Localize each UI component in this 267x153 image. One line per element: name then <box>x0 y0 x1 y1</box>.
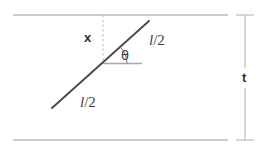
half-length-lower-label: l/2 <box>80 95 96 110</box>
distance-x-label: x <box>84 31 91 44</box>
half-length-upper-label: l/2 <box>149 33 165 48</box>
gap-t-label: t <box>242 71 246 84</box>
needle-line <box>52 21 149 108</box>
angle-theta-label: θ <box>121 49 129 62</box>
half-length-lower-suffix: /2 <box>84 94 96 110</box>
figure-canvas <box>0 0 267 153</box>
buffon-needle-figure: x θ l/2 l/2 t <box>0 0 267 153</box>
half-length-upper-suffix: /2 <box>153 32 165 48</box>
